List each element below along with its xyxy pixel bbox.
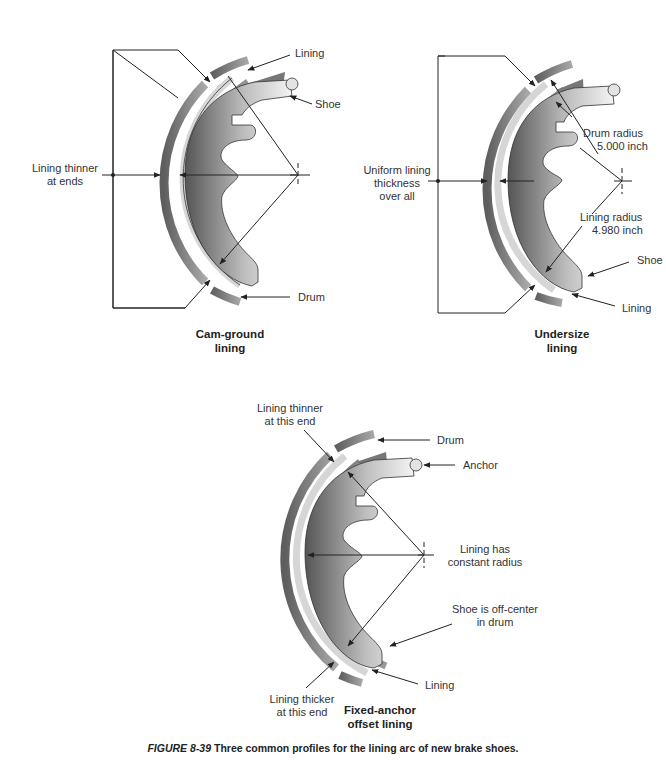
label-drum-fixed: Drum	[437, 434, 464, 447]
label-constant-radius: Lining has constant radius	[440, 543, 530, 569]
label-drum-radius: Drum radius 5.000 inch	[583, 127, 648, 153]
label-anchor: Anchor	[463, 459, 498, 472]
panel-cam-ground	[102, 50, 312, 308]
label-shoe-off-center: Shoe is off-center in drum	[440, 603, 550, 629]
label-shoe: Shoe	[315, 98, 341, 111]
label-lining-thinner-at-this-end: Lining thinner at this end	[250, 402, 330, 428]
panel-title-cam-ground: Cam-ground lining	[180, 327, 280, 355]
panel-undersize	[428, 56, 632, 313]
label-drum: Drum	[298, 291, 325, 304]
figure-number: FIGURE 8-39	[147, 742, 211, 754]
label-lining-radius: Lining radius 4.980 inch	[580, 211, 643, 237]
label-lining: Lining	[295, 47, 324, 60]
panel-fixed-anchor	[285, 430, 455, 688]
label-lining-thinner-at-ends: Lining thinner at ends	[30, 162, 100, 188]
panel-title-fixed-anchor: Fixed-anchor offset lining	[325, 703, 435, 731]
panel-title-undersize: Undersize lining	[512, 327, 612, 355]
brake-shoe-figure	[0, 0, 666, 762]
label-lining-undersize: Lining	[622, 302, 651, 315]
label-uniform-lining-thickness: Uniform lining thickness over all	[362, 164, 432, 203]
label-lining-fixed: Lining	[425, 679, 454, 692]
figure-caption: FIGURE 8-39 Three common profiles for th…	[0, 742, 666, 754]
label-shoe-undersize: Shoe	[637, 254, 663, 267]
figure-caption-text: Three common profiles for the lining arc…	[211, 742, 518, 754]
